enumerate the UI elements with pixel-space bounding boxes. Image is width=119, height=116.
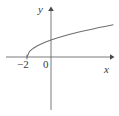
x-axis-arrowhead: [110, 54, 115, 60]
sqrt-curve: [27, 25, 113, 57]
y-axis-arrowhead: [48, 7, 54, 12]
x-tick-label-neg2: −2: [17, 59, 29, 70]
y-axis-label: y: [38, 4, 43, 15]
origin-label-zero: 0: [43, 59, 49, 70]
x-axis-label: x: [104, 64, 109, 75]
graph-figure: y x −2 0: [0, 0, 119, 116]
